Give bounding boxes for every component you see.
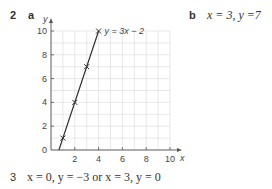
y-tick-label: 10 bbox=[37, 26, 47, 36]
part-b-label: b bbox=[189, 9, 196, 21]
y-tick-label: 4 bbox=[42, 97, 47, 107]
series: y = 3x − 2 bbox=[59, 26, 144, 150]
x-tick-label: 8 bbox=[144, 154, 149, 164]
x-tick-label: 10 bbox=[165, 154, 175, 164]
y-axis-label: y bbox=[42, 14, 48, 24]
x-axis-arrow-icon bbox=[177, 148, 182, 152]
axes: xy bbox=[42, 14, 185, 163]
x-axis-label: x bbox=[179, 153, 185, 163]
line-label: y = 3x − 2 bbox=[104, 26, 145, 36]
ticks: 2468100246810 bbox=[37, 26, 175, 164]
question-3-number: 3 bbox=[10, 171, 16, 183]
y-tick-label: 6 bbox=[42, 74, 47, 84]
y-axis-arrow-icon bbox=[49, 18, 53, 23]
x-tick-label: 2 bbox=[72, 154, 77, 164]
y-tick-label: 0 bbox=[42, 145, 47, 155]
graph: xy 2468100246810 y = 3x − 2 bbox=[0, 0, 272, 189]
y-tick-label: 8 bbox=[42, 50, 47, 60]
part-b-answer: x = 3, y =7 bbox=[207, 8, 261, 23]
grid bbox=[51, 31, 170, 150]
y-tick-label: 2 bbox=[42, 121, 47, 131]
x-tick-label: 6 bbox=[120, 154, 125, 164]
x-tick-label: 4 bbox=[96, 154, 101, 164]
question-3-answer: x = 0, y = −3 or x = 3, y = 0 bbox=[27, 170, 161, 185]
